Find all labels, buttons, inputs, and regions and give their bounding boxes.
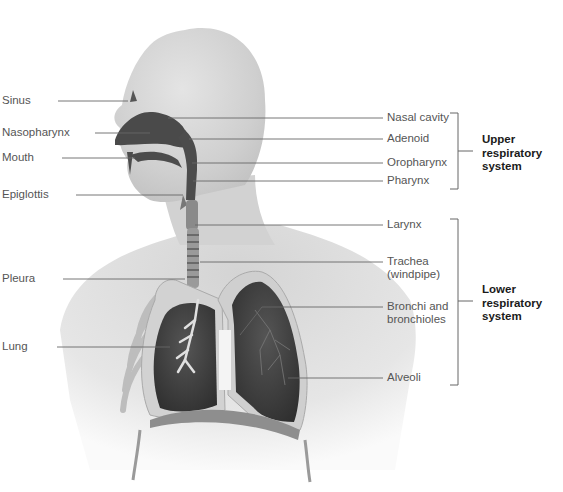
mediastinum-shape [219, 330, 231, 390]
anatomy-illustration [0, 0, 563, 492]
label-alveoli: Alveoli [387, 371, 421, 384]
label-larynx: Larynx [387, 218, 422, 231]
label-epiglottis: Epiglottis [2, 188, 49, 201]
group-label-lower: Lower respiratory system [482, 283, 542, 324]
label-oropharynx: Oropharynx [387, 156, 447, 169]
respiratory-system-diagram: Sinus Nasopharynx Mouth Epiglottis Pleur… [0, 0, 563, 492]
label-lung: Lung [2, 340, 28, 353]
label-mouth: Mouth [2, 151, 34, 164]
group-label-upper: Upper respiratory system [482, 133, 542, 174]
label-pleura: Pleura [2, 272, 35, 285]
larynx-shape [186, 200, 198, 230]
bracket-lower [450, 219, 473, 385]
trachea-shape [187, 228, 199, 288]
label-nasal-cavity: Nasal cavity [387, 111, 449, 124]
label-bronchi: Bronchi and bronchioles [387, 300, 448, 326]
bracket-upper [450, 113, 473, 189]
label-sinus: Sinus [2, 94, 31, 107]
label-adenoid: Adenoid [387, 132, 429, 145]
label-nasopharynx: Nasopharynx [2, 126, 70, 139]
label-trachea: Trachea (windpipe) [387, 255, 440, 281]
label-pharynx: Pharynx [387, 174, 429, 187]
